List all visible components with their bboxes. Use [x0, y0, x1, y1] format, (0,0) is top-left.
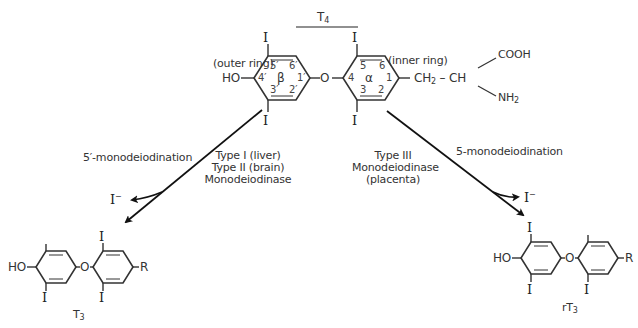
side-chain-amine: NH2: [498, 92, 519, 103]
left-reaction-label: 5′-monodeiodination: [83, 152, 192, 163]
t4-bridge-oxygen: O: [320, 72, 329, 84]
pos-5prime: 5′: [270, 61, 278, 71]
t4-title: T4: [317, 11, 329, 23]
t3-iodine-inner-bottom: I: [99, 291, 104, 304]
t3-iodine-outer-bottom: I: [42, 291, 47, 304]
t3-inner-ring: [93, 251, 133, 283]
pos-3prime: 3′: [270, 85, 278, 95]
t3-iodine-inner-top: I: [99, 230, 104, 243]
right-enzyme-line-3: (placenta): [352, 174, 434, 186]
t3-outer-ring: [36, 251, 76, 283]
right-reaction-label: 5-monodeiodination: [456, 146, 563, 157]
t3-bridge-oxygen: O: [80, 261, 89, 273]
pos-1prime: 1′: [297, 73, 305, 83]
deiodination-diagram: T4 I I I I (outer ring) (inner ring) HO …: [0, 0, 638, 328]
left-released-iodide: I−: [110, 193, 121, 206]
pos-1: 1: [386, 73, 392, 83]
inner-ring-label: (inner ring): [388, 55, 448, 66]
rt3-r-group: R: [625, 252, 633, 264]
t3-hydroxyl: HO: [8, 261, 26, 273]
rt3-name: rT3: [562, 302, 578, 313]
t4-iodine-5prime: I: [263, 31, 268, 44]
rt3-inner-ring: [578, 242, 618, 274]
rt3-iodine-outer-bottom: I: [527, 283, 532, 296]
pos-2prime: 2′: [289, 85, 297, 95]
pos-6: 6: [379, 61, 385, 71]
pos-4prime: 4′: [258, 73, 266, 83]
rt3-iodine-inner-bottom: I: [584, 283, 589, 296]
t4-iodine-5: I: [352, 31, 357, 44]
rt3-outer-ring: [521, 242, 561, 274]
side-chain-carboxyl: COOH: [498, 49, 530, 60]
t3-r-group: R: [140, 261, 148, 273]
rt3-bridge-oxygen: O: [565, 252, 574, 264]
t4-hydroxyl: HO: [222, 72, 240, 84]
pos-2: 2: [378, 85, 384, 95]
left-enzyme-label: Type I (liver) Type II (brain) Monodeiod…: [203, 150, 293, 186]
diagram-lines: [0, 0, 638, 328]
left-enzyme-line-3: Monodeiodinase: [203, 174, 293, 186]
t4-iodine-3: I: [352, 114, 357, 127]
rt3-hydroxyl: HO: [493, 252, 511, 264]
right-released-iodide: I−: [524, 191, 535, 204]
pos-5: 5: [360, 61, 366, 71]
pos-6prime: 6′: [289, 61, 297, 71]
pos-3: 3: [360, 85, 366, 95]
side-chain-ch2: CH2 – CH: [414, 72, 466, 84]
pos-4: 4: [348, 73, 354, 83]
outer-ring-beta: β: [277, 72, 284, 84]
t3-name: T3: [73, 309, 84, 320]
right-enzyme-label: Type III Monodeiodinase (placenta): [352, 150, 434, 186]
t4-iodine-3prime: I: [263, 114, 268, 127]
inner-ring-alpha: α: [365, 72, 373, 84]
outer-ring-label: (outer ring): [213, 58, 274, 69]
rt3-iodine-outer-top: I: [527, 221, 532, 234]
